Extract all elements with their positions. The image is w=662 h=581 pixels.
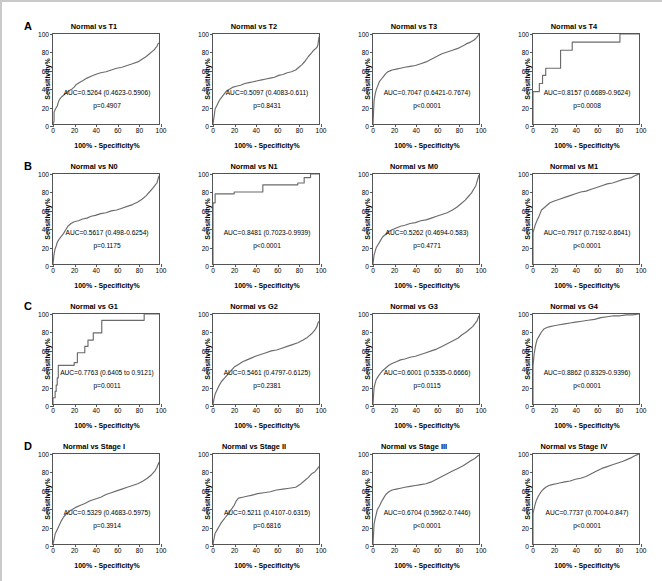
x-tick-label: 20 bbox=[231, 407, 238, 414]
x-tick-label: 20 bbox=[551, 407, 558, 414]
plot-area: 020406080100020406080100Sensitivity%100%… bbox=[372, 33, 480, 125]
x-tick-label: 40 bbox=[93, 127, 100, 134]
x-tick-label: 80 bbox=[136, 267, 143, 274]
x-tick-mark bbox=[416, 404, 417, 407]
y-axis-label: Sensitivity% bbox=[44, 338, 51, 379]
x-tick-label: 80 bbox=[296, 267, 303, 274]
x-tick-label: 20 bbox=[231, 267, 238, 274]
x-tick-mark bbox=[235, 264, 236, 267]
y-axis-label: Sensitivity% bbox=[364, 478, 371, 519]
y-tick-mark bbox=[370, 108, 373, 109]
roc-panel-c1: Normal vs G1020406080100020406080100Sens… bbox=[14, 300, 174, 441]
x-tick-label: 20 bbox=[231, 547, 238, 554]
x-tick-mark bbox=[118, 544, 119, 547]
auc-text: AUC=0.5461 (0.4797-0.6125) bbox=[217, 369, 317, 376]
auc-text: AUC=0.5264 (0.4623-0.5906) bbox=[57, 89, 157, 96]
x-tick-label: 0 bbox=[371, 267, 375, 274]
x-tick-label: 100 bbox=[475, 127, 486, 134]
x-tick-mark bbox=[278, 264, 279, 267]
x-tick-mark bbox=[459, 264, 460, 267]
auc-text: AUC=0.8862 (0.8329-0.9396) bbox=[537, 369, 637, 376]
x-tick-label: 60 bbox=[274, 127, 281, 134]
p-value-text: p<0.0001 bbox=[537, 382, 637, 389]
p-value-text: p<0.0001 bbox=[537, 522, 637, 529]
x-tick-label: 80 bbox=[616, 267, 623, 274]
x-tick-label: 0 bbox=[51, 267, 55, 274]
roc-curve bbox=[533, 454, 639, 544]
roc-panel-d3: Normal vs Stage III020406080100020406080… bbox=[334, 440, 494, 581]
x-tick-mark bbox=[139, 544, 140, 547]
x-tick-mark bbox=[75, 544, 76, 547]
x-axis-label: 100% - Specificity% bbox=[199, 422, 335, 429]
y-axis-label: Sensitivity% bbox=[44, 478, 51, 519]
y-tick-mark bbox=[50, 528, 53, 529]
x-axis-label: 100% - Specificity% bbox=[519, 422, 655, 429]
auc-text: AUC=0.6001 (0.5335-0.6666) bbox=[377, 369, 477, 376]
x-tick-label: 0 bbox=[51, 547, 55, 554]
x-tick-mark bbox=[555, 124, 556, 127]
roc-panel-b3: Normal vs M0020406080100020406080100Sens… bbox=[334, 160, 494, 301]
x-tick-mark bbox=[533, 404, 534, 407]
x-tick-label: 40 bbox=[93, 407, 100, 414]
y-tick-mark bbox=[530, 332, 533, 333]
x-tick-label: 60 bbox=[594, 407, 601, 414]
x-axis-label: 100% - Specificity% bbox=[519, 282, 655, 289]
x-tick-label: 40 bbox=[253, 127, 260, 134]
y-tick-label: 80 bbox=[42, 49, 49, 56]
x-tick-mark bbox=[53, 124, 54, 127]
y-tick-label: 0 bbox=[525, 543, 529, 550]
y-tick-label: 100 bbox=[518, 171, 529, 178]
x-tick-mark bbox=[619, 544, 620, 547]
x-tick-label: 40 bbox=[413, 547, 420, 554]
roc-curve bbox=[213, 454, 319, 544]
x-tick-mark bbox=[161, 264, 162, 267]
auc-text: AUC=0.5262 (0.4694-0.583) bbox=[377, 229, 477, 236]
y-tick-mark bbox=[530, 174, 533, 175]
roc-curve bbox=[373, 174, 479, 264]
y-axis-label: Sensitivity% bbox=[364, 198, 371, 239]
y-tick-mark bbox=[530, 314, 533, 315]
plot-area: 020406080100020406080100Sensitivity%100%… bbox=[52, 173, 160, 265]
x-tick-label: 20 bbox=[551, 267, 558, 274]
y-axis-label: Sensitivity% bbox=[44, 198, 51, 239]
x-tick-mark bbox=[256, 404, 257, 407]
x-tick-label: 100 bbox=[315, 407, 326, 414]
y-tick-mark bbox=[50, 388, 53, 389]
y-tick-label: 0 bbox=[365, 263, 369, 270]
x-tick-label: 0 bbox=[531, 127, 535, 134]
x-tick-label: 60 bbox=[274, 267, 281, 274]
y-tick-label: 80 bbox=[42, 329, 49, 336]
x-tick-label: 40 bbox=[413, 407, 420, 414]
y-tick-mark bbox=[50, 52, 53, 53]
y-tick-mark bbox=[50, 108, 53, 109]
x-tick-mark bbox=[278, 404, 279, 407]
x-tick-mark bbox=[321, 404, 322, 407]
x-tick-mark bbox=[416, 544, 417, 547]
auc-text: AUC=0.5617 (0.498-0.6254) bbox=[57, 229, 157, 236]
x-tick-mark bbox=[576, 544, 577, 547]
p-value-text: p=0.3914 bbox=[57, 522, 157, 529]
y-tick-label: 80 bbox=[522, 469, 529, 476]
x-axis-label: 100% - Specificity% bbox=[39, 282, 175, 289]
panel-row-b: BNormal vs N0020406080100020406080100Sen… bbox=[2, 160, 662, 301]
y-tick-label: 80 bbox=[362, 329, 369, 336]
x-tick-label: 40 bbox=[253, 547, 260, 554]
x-tick-mark bbox=[321, 544, 322, 547]
x-tick-mark bbox=[459, 124, 460, 127]
y-tick-label: 100 bbox=[518, 451, 529, 458]
y-tick-label: 20 bbox=[202, 524, 209, 531]
x-tick-mark bbox=[438, 544, 439, 547]
x-tick-label: 60 bbox=[434, 547, 441, 554]
y-tick-mark bbox=[370, 314, 373, 315]
y-tick-label: 100 bbox=[358, 171, 369, 178]
y-tick-label: 100 bbox=[198, 311, 209, 318]
y-tick-mark bbox=[210, 192, 213, 193]
y-tick-mark bbox=[370, 248, 373, 249]
roc-panel-d4: Normal vs Stage IV0204060801000204060801… bbox=[494, 440, 654, 581]
stat-annotation: AUC=0.7047 (0.6421-0.7674)p<0.0001 bbox=[377, 89, 477, 109]
x-tick-mark bbox=[641, 264, 642, 267]
y-tick-mark bbox=[370, 192, 373, 193]
y-tick-label: 0 bbox=[365, 123, 369, 130]
x-tick-mark bbox=[96, 124, 97, 127]
y-tick-label: 100 bbox=[518, 31, 529, 38]
